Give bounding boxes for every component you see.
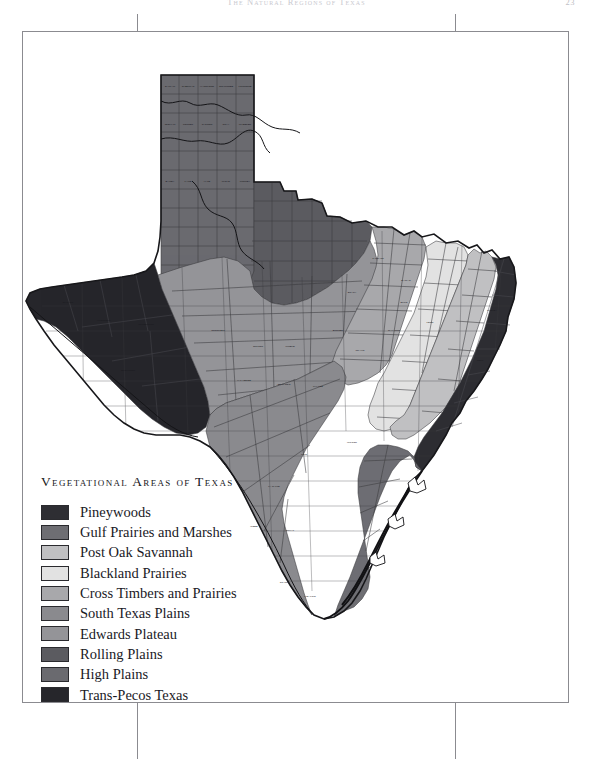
running-head: The Natural Regions of Texas xyxy=(0,0,593,8)
svg-text:POTTER: POTTER xyxy=(183,123,193,126)
legend-item-blackland-prairies[interactable]: Blackland Prairies xyxy=(38,563,288,583)
legend-item-edwards-plateau[interactable]: Edwards Plateau xyxy=(38,624,288,644)
legend-label-cross-timbers-and-prairies: Cross Timbers and Prairies xyxy=(80,586,237,601)
svg-text:EDWARDS: EDWARDS xyxy=(278,383,291,386)
svg-text:VAL VERDE: VAL VERDE xyxy=(237,379,251,382)
legend-label-gulf-prairies-and-marshes: Gulf Prairies and Marshes xyxy=(80,525,232,540)
legend-label-trans-pecos-texas: Trans-Pecos Texas xyxy=(80,688,188,703)
legend-label-south-texas-plains: South Texas Plains xyxy=(80,606,190,621)
svg-text:KIMBLE: KIMBLE xyxy=(285,345,295,348)
legend-swatch-blackland-prairies xyxy=(41,566,69,581)
svg-text:POLK: POLK xyxy=(477,359,484,362)
svg-text:HUDSPETH: HUDSPETH xyxy=(97,319,111,322)
legend-item-rolling-plains[interactable]: Rolling Plains xyxy=(38,644,288,664)
crop-tick-top-right xyxy=(455,14,456,31)
svg-text:ELLIS: ELLIS xyxy=(401,301,408,304)
svg-text:SUTTON: SUTTON xyxy=(253,345,263,348)
map-legend: Vegetational Areas of Texas Pineywoods G… xyxy=(38,474,288,705)
crop-tick-bottom-left xyxy=(137,703,138,759)
page-number: 23 xyxy=(566,0,576,7)
legend-swatch-high-plains xyxy=(41,667,69,682)
svg-text:LEON: LEON xyxy=(427,321,434,324)
svg-text:HALE: HALE xyxy=(204,180,211,183)
svg-text:WILSON: WILSON xyxy=(347,441,357,444)
matagorda-bay xyxy=(388,514,404,529)
svg-text:FLOYD: FLOYD xyxy=(222,180,231,183)
svg-text:GRAY: GRAY xyxy=(223,123,230,126)
svg-text:NAVARRO: NAVARRO xyxy=(388,329,400,332)
svg-text:TRAVIS: TRAVIS xyxy=(356,349,365,352)
book-page: The Natural Regions of Texas 23 .cty{str… xyxy=(0,0,593,759)
svg-text:SHERMAN: SHERMAN xyxy=(182,85,195,88)
legend-swatch-gulf-prairies-and-marshes xyxy=(41,525,69,540)
svg-text:BURNET: BURNET xyxy=(333,329,344,332)
legend-label-edwards-plateau: Edwards Plateau xyxy=(80,627,177,642)
svg-text:CROCKETT: CROCKETT xyxy=(211,329,225,332)
svg-text:WHEELER: WHEELER xyxy=(239,123,252,126)
legend-swatch-rolling-plains xyxy=(41,647,69,662)
legend-label-post-oak-savannah: Post Oak Savannah xyxy=(80,545,193,560)
svg-text:OLDHAM: OLDHAM xyxy=(165,123,176,126)
svg-text:HIDALGO: HIDALGO xyxy=(304,595,315,598)
legend-swatch-cross-timbers-and-prairies xyxy=(41,586,69,601)
legend-swatch-pineywoods xyxy=(41,505,69,520)
svg-text:HANSFORD: HANSFORD xyxy=(200,85,214,88)
svg-text:MOTLEY: MOTLEY xyxy=(240,180,251,183)
legend-item-gulf-prairies-and-marshes[interactable]: Gulf Prairies and Marshes xyxy=(38,522,288,542)
svg-text:DALLAM: DALLAM xyxy=(165,85,175,88)
legend-label-blackland-prairies: Blackland Prairies xyxy=(80,566,187,581)
legend-title: Vegetational Areas of Texas xyxy=(41,474,288,490)
legend-swatch-trans-pecos-texas xyxy=(41,687,69,702)
crop-tick-bottom-right xyxy=(455,703,456,759)
legend-label-rolling-plains: Rolling Plains xyxy=(80,647,163,662)
svg-text:EL PASO: EL PASO xyxy=(63,301,73,304)
svg-text:TARRANT: TARRANT xyxy=(372,257,384,260)
svg-text:CULBERSON: CULBERSON xyxy=(138,323,154,326)
legend-item-trans-pecos-texas[interactable]: Trans-Pecos Texas xyxy=(38,685,288,705)
legend-label-high-plains: High Plains xyxy=(80,667,148,682)
svg-text:OCHILTREE: OCHILTREE xyxy=(219,85,233,88)
legend-label-pineywoods: Pineywoods xyxy=(80,505,151,520)
svg-text:LIPSCOMB: LIPSCOMB xyxy=(239,85,252,88)
legend-item-south-texas-plains[interactable]: South Texas Plains xyxy=(38,603,288,623)
legend-item-cross-timbers-and-prairies[interactable]: Cross Timbers and Prairies xyxy=(38,583,288,603)
svg-text:UVALDE: UVALDE xyxy=(313,385,323,388)
svg-text:SHELBY: SHELBY xyxy=(487,309,497,312)
svg-text:BREWSTER: BREWSTER xyxy=(121,369,135,372)
svg-text:DALLAS: DALLAS xyxy=(401,279,411,282)
legend-swatch-post-oak-savannah xyxy=(41,545,69,560)
legend-item-high-plains[interactable]: High Plains xyxy=(38,664,288,684)
svg-text:ERATH: ERATH xyxy=(348,291,356,294)
crop-tick-top-left xyxy=(137,14,138,31)
legend-swatch-south-texas-plains xyxy=(41,606,69,621)
svg-text:CARSON: CARSON xyxy=(202,123,213,126)
legend-swatch-edwards-plateau xyxy=(41,626,69,641)
svg-text:FRIO: FRIO xyxy=(301,453,307,456)
legend-item-pineywoods[interactable]: Pineywoods xyxy=(38,502,288,522)
svg-text:LAMB: LAMB xyxy=(185,180,192,183)
svg-text:BAILEY: BAILEY xyxy=(166,180,175,183)
legend-item-post-oak-savannah[interactable]: Post Oak Savannah xyxy=(38,543,288,563)
